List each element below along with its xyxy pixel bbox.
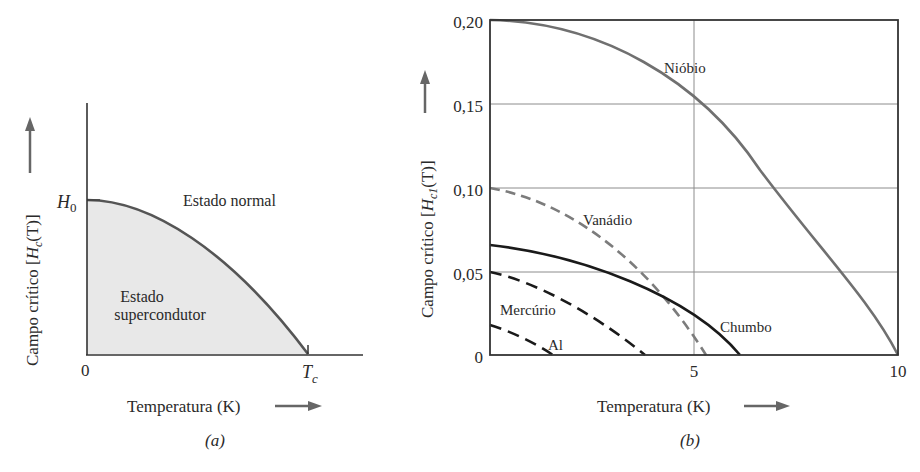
label-niobio: Nióbio <box>664 60 706 76</box>
x-axis-label-b: Temperatura (K) <box>597 397 711 416</box>
x-arrow-icon-b <box>744 401 790 411</box>
region-super-label-2: supercondutor <box>114 306 206 324</box>
y-tick-020: 0,20 <box>453 13 483 32</box>
caption-a: (a) <box>205 431 225 450</box>
label-vanadio: Vanádio <box>583 212 632 228</box>
y-tick-005: 0,05 <box>453 265 483 284</box>
y-axis-label-a: Campo crítico [Hc(T)] <box>23 214 45 366</box>
x-arrow-icon-a <box>275 401 322 411</box>
region-normal-label: Estado normal <box>183 192 276 209</box>
x-tick-10: 10 <box>890 362 907 381</box>
panel-b: 0,20 0,15 0,10 0,05 0 5 10 Nióbio Vanádi… <box>418 13 907 450</box>
x-tick-tc: Tc <box>302 362 318 386</box>
x-axis-label-a: Temperatura (K) <box>127 397 241 416</box>
y-arrow-icon-b <box>420 70 430 113</box>
y-tick-015: 0,15 <box>453 97 483 116</box>
superconducting-region-fill <box>87 200 308 354</box>
x-tick-0: 0 <box>81 361 90 380</box>
y-arrow-icon-a <box>25 117 35 173</box>
region-super-label-1: Estado <box>120 288 164 305</box>
caption-b: (b) <box>680 431 700 450</box>
y-tick-010: 0,10 <box>453 181 483 200</box>
label-chumbo: Chumbo <box>720 319 772 335</box>
label-mercurio: Mercúrio <box>500 302 556 318</box>
x-tick-5: 5 <box>690 362 699 381</box>
y-tick-h0: H0 <box>56 192 77 215</box>
figure-canvas: 0 Tc H0 Estado normal Estado supercondut… <box>0 0 920 472</box>
y-tick-0: 0 <box>475 348 484 367</box>
curve-chumbo <box>490 245 740 355</box>
y-axis-label-b: Campo crítico [Hc1(T)] <box>418 160 440 318</box>
curve-al <box>490 325 553 355</box>
panel-a: 0 Tc H0 Estado normal Estado supercondut… <box>23 103 363 450</box>
label-al: Al <box>548 337 563 353</box>
